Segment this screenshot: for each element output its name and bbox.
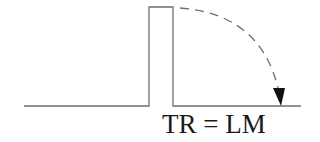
arrowhead-icon bbox=[273, 88, 285, 106]
equation-label: TR = LM bbox=[162, 109, 266, 139]
dashed-arc bbox=[180, 8, 279, 92]
baseline-with-pulse bbox=[24, 7, 301, 106]
pulse-diagram bbox=[0, 0, 320, 142]
